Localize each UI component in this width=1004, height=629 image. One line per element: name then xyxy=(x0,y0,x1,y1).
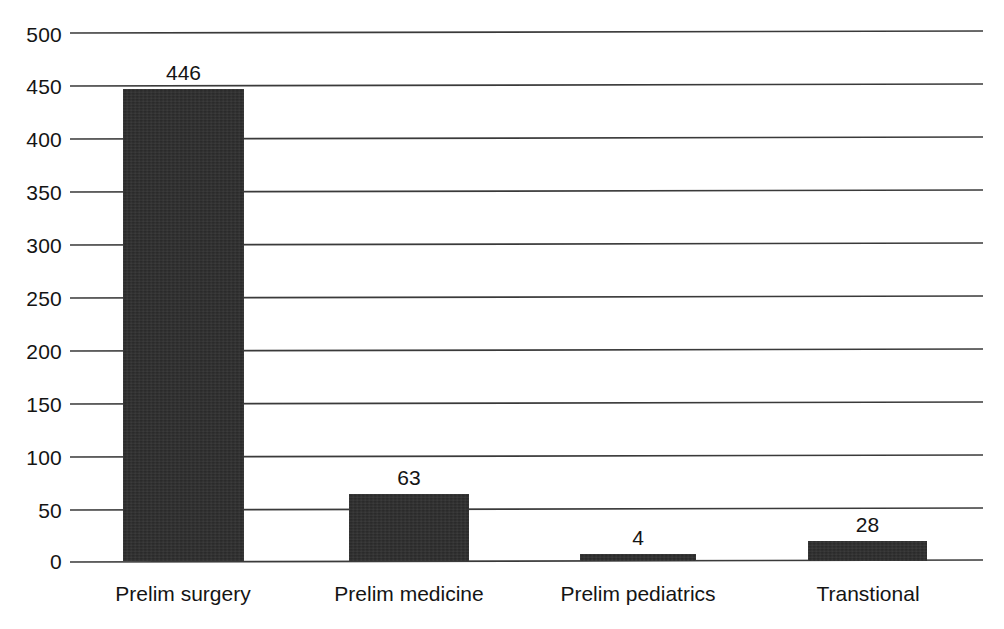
bar-value-transitional: 28 xyxy=(808,514,927,535)
x-tick-label-transitional: Transtional xyxy=(758,582,978,606)
x-tick-label-prelim-pediatrics: Prelim pediatrics xyxy=(528,582,748,606)
bar-value-prelim-pediatrics: 4 xyxy=(580,527,696,548)
bar-value-prelim-medicine: 63 xyxy=(349,467,469,488)
x-tick-label-prelim-surgery: Prelim surgery xyxy=(73,582,293,606)
plot-area: 446 63 4 28 xyxy=(0,0,1004,629)
figure-caption xyxy=(14,618,574,629)
bar-prelim-pediatrics[interactable] xyxy=(580,554,696,561)
bar-chart: 500 450 400 350 300 250 200 150 100 50 0 xyxy=(0,0,1004,629)
bar-prelim-surgery[interactable] xyxy=(123,89,244,561)
bar-value-prelim-surgery: 446 xyxy=(123,62,244,83)
x-tick-label-prelim-medicine: Prelim medicine xyxy=(299,582,519,606)
bar-prelim-medicine[interactable] xyxy=(349,494,469,561)
bar-transitional[interactable] xyxy=(808,541,927,561)
